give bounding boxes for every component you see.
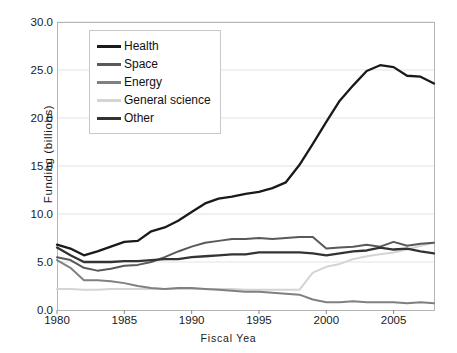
- legend-item: Health: [97, 37, 211, 55]
- legend-swatch-icon: [97, 117, 121, 120]
- legend-label: Health: [124, 40, 159, 52]
- legend-swatch-icon: [97, 63, 121, 66]
- legend-swatch-icon: [97, 99, 121, 102]
- legend-item: Other: [97, 109, 211, 127]
- legend-swatch-icon: [97, 81, 121, 84]
- legend-label: General science: [124, 94, 211, 106]
- x-tick-label: 1980: [27, 314, 87, 326]
- x-tick-label: 1985: [94, 314, 154, 326]
- legend-item: Space: [97, 55, 211, 73]
- legend-swatch-icon: [97, 45, 121, 48]
- legend-item: General science: [97, 91, 211, 109]
- chart-legend: HealthSpaceEnergyGeneral scienceOther: [89, 30, 221, 134]
- x-axis-title: Fiscal Yea: [0, 332, 457, 344]
- funding-line-chart: Funding (billions) 0.05.010.015.020.025.…: [0, 0, 457, 353]
- x-tick-label: 2005: [364, 314, 424, 326]
- x-tick-label: 1995: [229, 314, 289, 326]
- legend-label: Energy: [124, 76, 162, 88]
- x-tick-label: 2000: [296, 314, 356, 326]
- legend-label: Space: [124, 58, 158, 70]
- x-axis-tick-labels: 198019851990199520002005: [0, 0, 457, 353]
- x-tick-label: 1990: [162, 314, 222, 326]
- legend-item: Energy: [97, 73, 211, 91]
- legend-label: Other: [124, 112, 154, 124]
